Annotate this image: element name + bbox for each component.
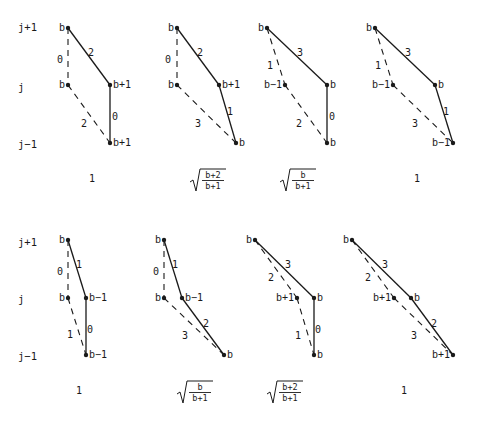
fraction-denominator: b+1 xyxy=(282,393,297,403)
node-label-top: b xyxy=(366,22,372,33)
panel-r2-2: 0132bbb−1bbb+1 xyxy=(153,234,233,403)
fraction-numerator: b+2 xyxy=(205,170,220,180)
panel-r2-3: 2310bb+1bbb+2b+1 xyxy=(246,234,323,403)
node-dot-right xyxy=(409,296,413,300)
node-label-left: b+1 xyxy=(373,292,391,303)
node-dot-left xyxy=(66,83,70,87)
transition-diagram-canvas: j+1jj−1j+1jj−1 0220bbb+1b+110231bbb+1bb+… xyxy=(0,0,478,421)
coefficient-value: 1 xyxy=(414,173,420,184)
node-label-left: b xyxy=(168,79,174,90)
panel-r1-1: 0220bbb+1b+11 xyxy=(57,22,131,184)
node-label-top: b xyxy=(258,22,264,33)
fraction-denominator: b+1 xyxy=(295,181,310,191)
edge-weight-label: 2 xyxy=(365,272,371,283)
fraction-numerator: b+2 xyxy=(282,382,297,392)
node-dot-top xyxy=(373,26,377,30)
node-dot-right xyxy=(217,83,221,87)
node-label-right: b−1 xyxy=(185,292,203,303)
row-label-j-plus-1: j+1 xyxy=(18,236,37,248)
node-dot-left xyxy=(162,296,166,300)
node-dot-bottom xyxy=(234,141,238,145)
node-dot-right xyxy=(108,83,112,87)
row-label-j: j xyxy=(18,81,24,93)
panel-coefficient: 1 xyxy=(89,173,95,184)
edge-weight-label: 3 xyxy=(382,259,388,270)
node-label-left: b xyxy=(59,292,65,303)
edge-weight-label: 0 xyxy=(57,266,63,277)
edge-weight-label: 2 xyxy=(296,118,302,129)
fraction-denominator: b+1 xyxy=(192,393,207,403)
node-label-left: b xyxy=(59,79,65,90)
edge-weight-label: 3 xyxy=(195,118,201,129)
edge-weight-label: 1 xyxy=(443,106,449,117)
edge-weight-label: 3 xyxy=(411,330,417,341)
edge-weight-label: 1 xyxy=(295,330,301,341)
edge-weight-label: 3 xyxy=(412,118,418,129)
edge-weight-label: 2 xyxy=(268,272,274,283)
node-label-right: b xyxy=(317,292,323,303)
edge-weight-label: 0 xyxy=(87,324,93,335)
dashed-edge-left-bottom xyxy=(68,85,110,143)
node-label-top: b xyxy=(155,234,161,245)
dashed-edge-left-bottom xyxy=(68,298,86,355)
node-dot-bottom xyxy=(451,141,455,145)
node-dot-left xyxy=(392,296,396,300)
coefficient-value: 1 xyxy=(76,385,82,396)
coefficient-value: 1 xyxy=(89,173,95,184)
node-label-bottom: b−1 xyxy=(89,349,107,360)
node-label-right: b xyxy=(414,292,420,303)
edge-weight-label: 0 xyxy=(165,54,171,65)
node-label-right: b+1 xyxy=(222,79,240,90)
edge-weight-label: 1 xyxy=(267,60,273,71)
fraction-numerator: b xyxy=(300,170,305,180)
node-dot-bottom xyxy=(84,353,88,357)
node-dot-bottom xyxy=(451,353,455,357)
node-label-bottom: b xyxy=(239,137,245,148)
node-label-right: b xyxy=(438,79,444,90)
node-label-top: b xyxy=(168,22,174,33)
dashed-edge-left-bottom xyxy=(285,85,327,143)
edge-weight-label: 2 xyxy=(88,47,94,58)
edge-weight-label: 1 xyxy=(76,259,82,270)
edge-weight-label: 2 xyxy=(203,318,209,329)
edge-weight-label: 3 xyxy=(182,330,188,341)
panel-r2-1: 0110bbb−1b−11 xyxy=(57,234,107,396)
node-label-left: b−1 xyxy=(264,79,282,90)
edge-weight-label: 0 xyxy=(315,324,321,335)
row-level-labels: j+1jj−1j+1jj−1 xyxy=(18,21,37,362)
node-label-left: b xyxy=(155,292,161,303)
panel-coefficient: 1 xyxy=(76,385,82,396)
node-dot-right xyxy=(84,296,88,300)
node-label-bottom: b+1 xyxy=(113,137,131,148)
edge-weight-label: 1 xyxy=(172,259,178,270)
node-label-bottom: b+1 xyxy=(432,349,450,360)
fraction-denominator: b+1 xyxy=(205,181,220,191)
node-label-left: b−1 xyxy=(372,79,390,90)
row-label-j-minus-1: j−1 xyxy=(18,350,37,362)
node-dot-bottom xyxy=(325,141,329,145)
edge-weight-label: 1 xyxy=(227,106,233,117)
node-label-right: b xyxy=(330,79,336,90)
node-dot-left xyxy=(66,296,70,300)
panel-r2-4: 2332bb+1bb+11 xyxy=(343,234,455,396)
node-dot-right xyxy=(325,83,329,87)
edge-weight-label: 2 xyxy=(81,118,87,129)
node-label-top: b xyxy=(59,234,65,245)
node-dot-left xyxy=(295,296,299,300)
node-dot-top xyxy=(66,238,70,242)
node-dot-top xyxy=(66,26,70,30)
panel-coefficient: 1 xyxy=(401,385,407,396)
edge-weight-label: 2 xyxy=(431,318,437,329)
node-dot-right xyxy=(180,296,184,300)
edge-weight-label: 2 xyxy=(197,47,203,58)
panel-coefficient: bb+1 xyxy=(280,169,316,191)
edge-weight-label: 0 xyxy=(329,111,335,122)
node-label-bottom: b xyxy=(227,349,233,360)
panel-r1-2: 0231bbb+1bb+2b+1 xyxy=(165,22,245,191)
node-dot-bottom xyxy=(108,141,112,145)
row-label-j-plus-1: j+1 xyxy=(18,21,37,33)
node-dot-top xyxy=(253,238,257,242)
dashed-edge-left-bottom xyxy=(394,298,453,355)
node-dot-left xyxy=(391,83,395,87)
node-label-bottom: b xyxy=(317,349,323,360)
